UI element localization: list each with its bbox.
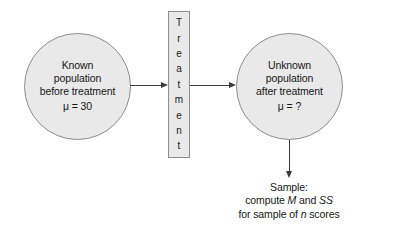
known-population-line3: before treatment [25, 85, 130, 98]
known-population-circle: Known population before treatment μ = 30 [24, 33, 131, 140]
arrow-before-to-treatment [130, 81, 168, 90]
unknown-population-line2: population [237, 72, 342, 85]
known-population-line2: population [25, 72, 130, 85]
unknown-population-line3: after treatment [237, 85, 342, 98]
treatment-letter: n [176, 123, 182, 138]
known-population-line1: Known [25, 59, 130, 72]
treatment-letter: t [178, 77, 181, 92]
arrow-after-to-sample [285, 140, 294, 178]
arrow-shaft [289, 140, 290, 172]
sample-caption-line2-middle: and [296, 194, 319, 206]
treatment-box: T r e a t m e n t [168, 11, 190, 158]
treatment-letter: r [177, 31, 180, 46]
sample-caption-line3-suffix: scores [306, 208, 339, 220]
sample-caption-line1: Sample: [199, 181, 379, 194]
unknown-population-line1: Unknown [237, 59, 342, 72]
arrow-head-down-icon [286, 171, 292, 178]
sample-caption-line2-prefix: compute [245, 194, 287, 206]
arrow-shaft [130, 85, 162, 86]
treatment-letter: t [178, 138, 181, 153]
arrow-head-right-icon [161, 82, 168, 88]
treatment-letter: e [176, 108, 182, 123]
known-population-text: Known population before treatment μ = 30 [25, 59, 130, 114]
treatment-letter: e [176, 46, 182, 61]
treatment-letter: a [176, 61, 182, 76]
treatment-letter: T [176, 15, 182, 30]
sample-caption: Sample: compute M and SS for sample of n… [199, 181, 379, 221]
treatment-letter: m [175, 92, 183, 107]
arrow-head-right-icon [229, 82, 236, 88]
diagram-canvas: Known population before treatment μ = 30… [0, 0, 403, 231]
unknown-population-mu: μ = ? [237, 100, 342, 113]
arrow-treatment-to-after [190, 81, 236, 90]
sample-caption-line3-prefix: for sample of [238, 208, 300, 220]
sample-caption-line3: for sample of n scores [199, 208, 379, 221]
unknown-population-circle: Unknown population after treatment μ = ? [236, 33, 343, 140]
unknown-population-text: Unknown population after treatment μ = ? [237, 59, 342, 114]
sample-caption-line2: compute M and SS [199, 194, 379, 207]
sample-caption-statistic-ss: SS [319, 194, 333, 206]
arrow-shaft [190, 85, 230, 86]
sample-caption-statistic-mean: M [288, 194, 297, 206]
known-population-mu: μ = 30 [25, 100, 130, 113]
